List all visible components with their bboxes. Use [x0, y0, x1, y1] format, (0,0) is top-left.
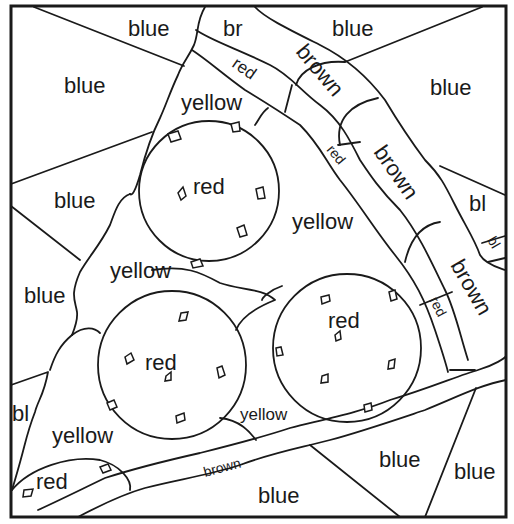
label-blue-top-right: blue: [332, 16, 374, 41]
label-yellow-left: yellow: [110, 258, 171, 283]
label-blue-bottom: blue: [258, 483, 300, 508]
label-blue-bottom-right: blue: [454, 459, 496, 484]
coloring-sheet: blue br blue blue red brown blue yellow …: [0, 0, 514, 524]
label-red-bottom-left: red: [36, 469, 68, 494]
label-yellow-top: yellow: [181, 90, 242, 115]
label-bl-right-small: bl: [484, 234, 503, 251]
label-bl-left: bl: [12, 401, 29, 426]
label-brown-crust-1: brown: [291, 39, 349, 101]
label-yellow-bottom-left: yellow: [52, 423, 113, 448]
label-blue-bottom-mid: blue: [379, 447, 421, 472]
label-blue-left-mid: blue: [54, 188, 96, 213]
label-yellow-bottom-mid: yellow: [240, 405, 288, 424]
label-brown-bottom: brown: [202, 455, 243, 480]
label-brown-crust-2: brown: [369, 141, 424, 204]
label-red-pepperoni-3: red: [328, 308, 360, 333]
label-red-crust-2: red: [324, 142, 349, 168]
label-blue-top: blue: [128, 16, 170, 41]
pepperoni-bottom-right: [273, 274, 421, 422]
label-bl-right: bl: [469, 191, 486, 216]
label-br-top: br: [223, 16, 243, 41]
label-red-pepperoni-2: red: [145, 350, 177, 375]
label-blue-left-lower: blue: [24, 283, 66, 308]
label-red-pepperoni-1: red: [193, 174, 225, 199]
label-yellow-mid: yellow: [292, 209, 353, 234]
label-blue-right: blue: [430, 75, 472, 100]
label-blue-upper-left: blue: [64, 73, 106, 98]
